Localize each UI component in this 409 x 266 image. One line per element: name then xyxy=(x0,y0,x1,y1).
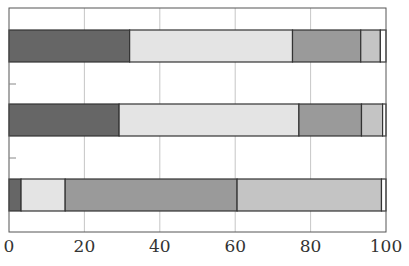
bar-3-segment-4 xyxy=(237,179,381,211)
bar-1-segment-3 xyxy=(293,30,361,62)
x-tick-label-100: 100 xyxy=(370,236,402,256)
bars xyxy=(9,30,386,211)
bar-3-segment-2 xyxy=(21,179,65,211)
bar-3-segment-1 xyxy=(9,179,21,211)
stacked-bar-chart: 020406080100 xyxy=(0,0,409,266)
bar-1-segment-4 xyxy=(361,30,381,62)
x-tick-label-40: 40 xyxy=(149,236,171,256)
bar-1-segment-1 xyxy=(9,30,130,62)
bar-2-segment-3 xyxy=(299,104,362,136)
x-tick-label-60: 60 xyxy=(224,236,246,256)
bar-3-segment-3 xyxy=(65,179,237,211)
bar-3 xyxy=(9,179,386,211)
bar-2-segment-4 xyxy=(361,104,382,136)
bar-1 xyxy=(9,30,386,62)
bar-3-segment-5 xyxy=(381,179,386,211)
bar-2-segment-2 xyxy=(119,104,299,136)
bar-1-segment-5 xyxy=(380,30,386,62)
bar-2-segment-1 xyxy=(9,104,119,136)
bar-2 xyxy=(9,104,386,136)
x-axis-tick-labels: 020406080100 xyxy=(4,236,403,256)
x-tick-label-0: 0 xyxy=(4,236,15,256)
x-tick-label-20: 20 xyxy=(74,236,96,256)
x-tick-label-80: 80 xyxy=(300,236,322,256)
bar-2-segment-5 xyxy=(383,104,386,136)
bar-1-segment-2 xyxy=(130,30,293,62)
